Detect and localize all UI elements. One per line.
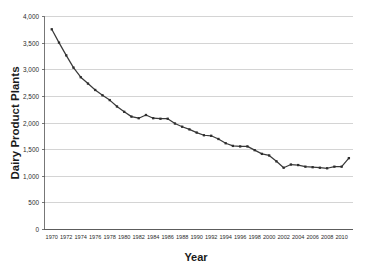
x-tick-label: 1978: [103, 234, 115, 240]
x-tick-label: 1988: [176, 234, 188, 240]
data-point-marker: [72, 66, 74, 68]
data-point-marker: [87, 82, 89, 84]
data-point-marker: [319, 167, 321, 169]
data-point-marker: [116, 105, 118, 107]
chart-background: [0, 0, 368, 269]
x-tick-label: 1970: [46, 234, 58, 240]
data-point-marker: [188, 128, 190, 130]
data-point-marker: [246, 145, 248, 147]
data-point-marker: [232, 145, 234, 147]
data-point-marker: [167, 118, 169, 120]
x-axis-title: Year: [184, 251, 208, 263]
y-tick-label: 2,000: [23, 120, 39, 127]
y-tick-label: 1,500: [23, 146, 39, 153]
y-tick-label: 3,000: [23, 66, 39, 73]
data-point-marker: [217, 138, 219, 140]
data-point-marker: [333, 166, 335, 168]
data-point-marker: [58, 41, 60, 43]
x-tick-label: 1982: [132, 234, 144, 240]
x-tick-label: 1992: [205, 234, 217, 240]
y-tick-label: 500: [28, 199, 39, 206]
x-tick-label: 2010: [335, 234, 347, 240]
y-tick-label: 1,000: [23, 173, 39, 180]
data-point-marker: [196, 131, 198, 133]
line-chart: 05001,0001,5002,0002,5003,0003,5004,000 …: [0, 0, 368, 269]
data-point-marker: [51, 28, 53, 30]
y-axis-title: Dairy Product Plants: [9, 66, 21, 179]
data-point-marker: [159, 118, 161, 120]
data-point-marker: [181, 126, 183, 128]
data-point-marker: [123, 111, 125, 113]
x-tick-label: 2000: [263, 234, 275, 240]
data-point-marker: [311, 166, 313, 168]
y-tick-label: 4,000: [23, 13, 39, 20]
x-tick-label: 1994: [219, 234, 231, 240]
data-point-marker: [326, 167, 328, 169]
data-point-marker: [340, 166, 342, 168]
data-point-marker: [225, 142, 227, 144]
x-tick-label: 1998: [248, 234, 260, 240]
data-point-marker: [290, 163, 292, 165]
x-tick-label: 1972: [60, 234, 72, 240]
x-tick-label: 2004: [292, 234, 304, 240]
data-point-marker: [348, 157, 350, 159]
x-tick-label: 1986: [161, 234, 173, 240]
data-point-marker: [145, 114, 147, 116]
x-tick-label: 2002: [277, 234, 289, 240]
data-point-marker: [138, 117, 140, 119]
data-point-marker: [261, 153, 263, 155]
data-point-marker: [283, 167, 285, 169]
data-point-marker: [275, 160, 277, 162]
data-point-marker: [254, 149, 256, 151]
data-point-marker: [101, 94, 103, 96]
data-point-marker: [297, 164, 299, 166]
x-tick-label: 1996: [234, 234, 246, 240]
chart-figure: 05001,0001,5002,0002,5003,0003,5004,000 …: [0, 0, 368, 269]
x-tick-label: 1980: [118, 234, 130, 240]
x-tick-label: 1990: [190, 234, 202, 240]
x-tick-labels-group: 1970197219741976197819801982198419861988…: [46, 234, 348, 240]
data-point-marker: [174, 122, 176, 124]
data-point-marker: [65, 54, 67, 56]
y-tick-label: 3,500: [23, 40, 39, 47]
data-point-marker: [304, 166, 306, 168]
data-point-marker: [152, 117, 154, 119]
data-point-marker: [268, 154, 270, 156]
data-point-marker: [239, 145, 241, 147]
data-point-marker: [210, 135, 212, 137]
y-tick-label: 2,500: [23, 93, 39, 100]
x-tick-label: 2006: [306, 234, 318, 240]
data-point-marker: [109, 99, 111, 101]
data-point-marker: [80, 76, 82, 78]
x-tick-label: 1984: [147, 234, 159, 240]
data-point-marker: [94, 89, 96, 91]
x-tick-label: 1976: [89, 234, 101, 240]
x-tick-label: 1974: [75, 234, 87, 240]
data-point-marker: [130, 115, 132, 117]
x-tick-label: 2008: [321, 234, 333, 240]
y-tick-label: 0: [35, 226, 39, 233]
data-point-marker: [203, 134, 205, 136]
